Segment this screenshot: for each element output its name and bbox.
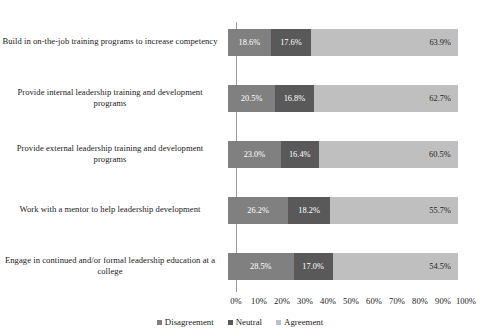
category-label: Provide external leadership training and… [0,143,228,166]
x-tick-label: 70% [389,296,405,306]
legend-label: Neutral [236,317,262,327]
x-axis-tick-labels: 0%10%20%30%40%50%60%70%80%90%100% [236,296,466,309]
bar-segment-disagreement: 20.5% [228,85,275,112]
bar-segment-disagreement: 26.2% [228,197,288,224]
x-tick-label: 60% [366,296,382,306]
legend-item-agreement[interactable]: Agreement [276,317,323,327]
category-label: Provide internal leadership training and… [0,87,228,110]
bar-segment-value: 54.5% [429,262,451,271]
category-label: Work with a mentor to help leadership de… [0,204,228,216]
stacked-bar: 18.6%17.6%63.9% [228,29,458,56]
bar-segment-agreement: 54.5% [333,253,458,280]
x-tick-label: 0% [230,296,241,306]
bar-segment-disagreement: 23.0% [228,141,281,168]
chart-row: Work with a mentor to help leadership de… [0,182,480,238]
bar-segment-value: 62.7% [429,94,451,103]
bar-segment-agreement: 60.5% [319,141,458,168]
bar-segment-neutral: 18.2% [288,197,330,224]
bar-segment-agreement: 55.7% [330,197,458,224]
chart-row: Engage in continued and/or formal leader… [0,238,480,294]
stacked-bar: 23.0%16.4%60.5% [228,141,458,168]
bar-segment-value: 18.6% [239,38,261,47]
bar-segment-value: 26.2% [247,206,269,215]
bar-segment-value: 55.7% [429,206,451,215]
x-tick-label: 20% [274,296,290,306]
bar-segment-agreement: 63.9% [311,29,458,56]
chart-row: Provide internal leadership training and… [0,70,480,126]
bar-segment-value: 16.4% [289,150,311,159]
bar-segment-value: 28.5% [250,262,272,271]
bar-segment-value: 63.9% [429,38,451,47]
bar-segment-value: 17.6% [280,38,302,47]
legend-label: Disagreement [165,317,214,327]
bar-segment-neutral: 17.6% [271,29,311,56]
x-tick-label: 90% [435,296,451,306]
bar-segment-value: 20.5% [241,94,263,103]
bar-segment-value: 18.2% [298,206,320,215]
chart-legend: DisagreementNeutralAgreement [0,317,480,327]
stacked-bar-chart: Build in on-the-job training programs to… [0,0,480,336]
legend-swatch-icon [228,320,233,325]
bar-segment-value: 17.0% [302,262,324,271]
x-tick-label: 10% [251,296,267,306]
stacked-bar: 26.2%18.2%55.7% [228,197,458,224]
stacked-bar: 20.5%16.8%62.7% [228,85,458,112]
bar-segment-neutral: 16.8% [275,85,314,112]
category-label: Engage in continued and/or formal leader… [0,255,228,278]
legend-label: Agreement [284,317,323,327]
bar-segment-disagreement: 18.6% [228,29,271,56]
legend-item-disagreement[interactable]: Disagreement [157,317,214,327]
bar-segment-value: 16.8% [284,94,306,103]
x-tick-label: 100% [456,296,476,306]
chart-row: Provide external leadership training and… [0,126,480,182]
bar-segment-agreement: 62.7% [314,85,458,112]
legend-item-neutral[interactable]: Neutral [228,317,262,327]
category-label: Build in on-the-job training programs to… [0,36,228,48]
x-tick-label: 50% [343,296,359,306]
x-tick-label: 40% [320,296,336,306]
bar-segment-value: 60.5% [429,150,451,159]
chart-row: Build in on-the-job training programs to… [0,14,480,70]
stacked-bar: 28.5%17.0%54.5% [228,253,458,280]
bar-segment-neutral: 17.0% [294,253,333,280]
x-tick-label: 30% [297,296,313,306]
bar-segment-neutral: 16.4% [281,141,319,168]
legend-swatch-icon [157,320,162,325]
bar-segment-value: 23.0% [244,150,266,159]
x-tick-label: 80% [412,296,428,306]
legend-swatch-icon [276,320,281,325]
bar-segment-disagreement: 28.5% [228,253,294,280]
